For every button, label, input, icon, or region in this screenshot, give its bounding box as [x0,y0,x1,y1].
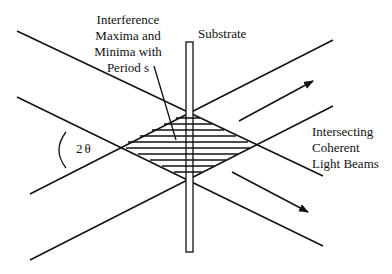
substrate-label: Substrate [198,26,246,42]
interference-line-4: Period s [93,60,163,76]
interference-line-1: Interference [93,12,163,28]
interference-line-3: Minima with [93,44,163,60]
beams-label: Intersecting Coherent Light Beams [312,124,379,172]
interference-line-2: Maxima and [93,28,163,44]
interference-label: Interference Maxima and Minima with Peri… [93,12,163,76]
angle-label: 2θ [76,141,93,157]
beams-line-1: Intersecting [312,124,379,140]
substrate [186,42,193,252]
beams-line-3: Light Beams [312,156,379,172]
beam-lines [17,31,333,260]
beams-line-2: Coherent [312,140,379,156]
angle-arc [59,132,66,168]
interference-diagram: Interference Maxima and Minima with Peri… [0,0,392,274]
arrow-up-right [239,81,313,121]
arrow-down-right [232,172,308,212]
